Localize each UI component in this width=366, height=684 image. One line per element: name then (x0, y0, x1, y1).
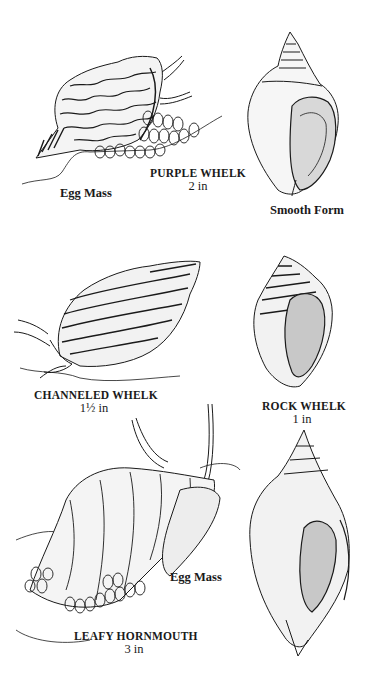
channeled-whelk-drawing (14, 261, 200, 380)
smooth-form-label: Smooth Form (270, 203, 344, 218)
rock-whelk-drawing (254, 256, 332, 387)
species-size: 2 in (148, 180, 248, 193)
purple-whelk-drawing (22, 56, 222, 184)
illustration-plate: Egg Mass PURPLE WHELK 2 in Smooth Form C… (0, 0, 366, 684)
channeled-whelk-label: CHANNELED WHELK 1½ in (34, 389, 154, 415)
smooth-form-drawing (248, 32, 338, 196)
species-size: 1 in (262, 413, 342, 426)
leafy-hornmouth-label: LEAFY HORNMOUTH 3 in (74, 630, 194, 656)
purple-whelk-egg-mass-label: Egg Mass (60, 186, 112, 201)
leafy-hornmouth-aperture-drawing (250, 430, 349, 656)
leafy-hornmouth-drawing (16, 404, 240, 642)
species-size: 1½ in (34, 402, 154, 415)
species-size: 3 in (74, 643, 194, 656)
rock-whelk-label: ROCK WHELK 1 in (262, 400, 342, 426)
leafy-hornmouth-egg-mass-label: Egg Mass (170, 570, 222, 585)
purple-whelk-label: PURPLE WHELK 2 in (148, 167, 248, 193)
